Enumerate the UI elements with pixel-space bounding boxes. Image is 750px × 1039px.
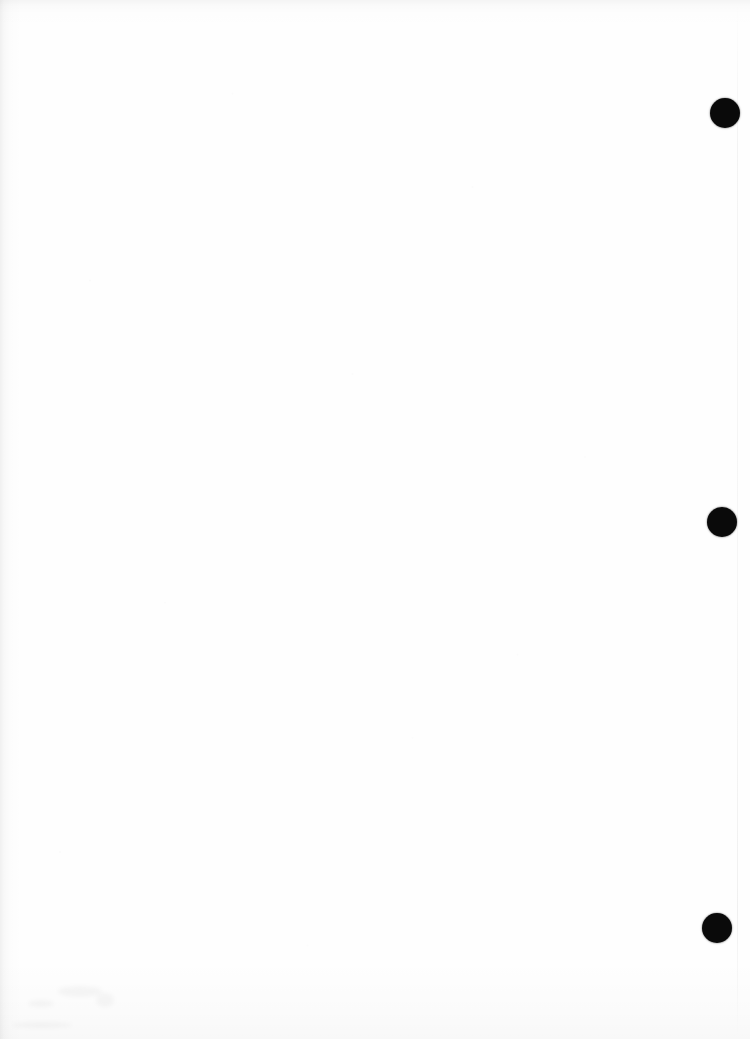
margin-dot-2 xyxy=(707,507,737,537)
margin-dot-3 xyxy=(702,913,732,943)
page-content-area xyxy=(0,0,750,1039)
margin-dot-1 xyxy=(710,98,740,128)
scanned-page xyxy=(0,0,750,1039)
